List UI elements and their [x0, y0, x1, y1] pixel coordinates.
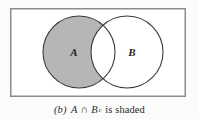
- circle-a-label: A: [69, 46, 77, 58]
- venn-svg: A B: [0, 0, 199, 100]
- caption-set-a: A: [71, 104, 78, 115]
- caption-index: (b): [54, 104, 67, 115]
- circle-b-label: B: [127, 46, 135, 58]
- caption-tail: is shaded: [105, 104, 145, 115]
- caption-intersection-operator: ∩: [81, 104, 89, 115]
- venn-figure: A B (b) A ∩ Bc is shaded: [0, 0, 199, 119]
- venn-diagram-canvas: A B: [0, 0, 199, 100]
- caption-set-b: B: [91, 104, 98, 115]
- figure-caption: (b) A ∩ Bc is shaded: [0, 100, 199, 119]
